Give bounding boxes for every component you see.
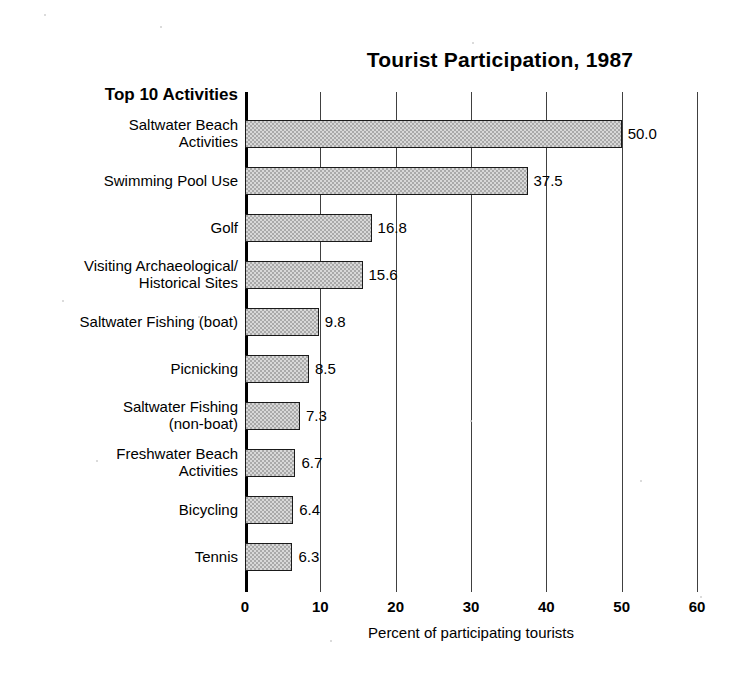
- x-tick-label: 20: [376, 598, 416, 615]
- category-label: Swimming Pool Use: [14, 172, 238, 189]
- category-label: Saltwater Fishing (non-boat): [14, 398, 238, 432]
- x-tick-label: 40: [526, 598, 566, 615]
- bar-value-label: 16.8: [378, 214, 407, 242]
- bar-value-label: 9.8: [325, 308, 346, 336]
- bar[interactable]: [245, 167, 528, 195]
- speckle: [62, 300, 64, 302]
- x-tick-label: 30: [451, 598, 491, 615]
- category-label: Tennis: [14, 548, 238, 565]
- x-tick-label: 50: [602, 598, 642, 615]
- bar-value-label: 15.6: [369, 261, 398, 289]
- speckle: [160, 26, 162, 28]
- x-tick-label: 60: [677, 598, 717, 615]
- bar[interactable]: [245, 543, 292, 571]
- category-label: Picnicking: [14, 360, 238, 377]
- bar[interactable]: [245, 402, 300, 430]
- category-label: Saltwater Beach Activities: [14, 116, 238, 150]
- bar[interactable]: [245, 261, 363, 289]
- bar-chart: Tourist Participation, 1987 Top 10 Activ…: [0, 0, 746, 673]
- speckle: [640, 480, 642, 482]
- speckle: [700, 596, 702, 598]
- category-label: Freshwater Beach Activities: [14, 445, 238, 479]
- bar[interactable]: [245, 449, 295, 477]
- speckle: [96, 460, 98, 462]
- x-tick-label: 0: [225, 598, 265, 615]
- plot-area: 50.037.516.815.69.88.57.36.76.46.3: [245, 92, 697, 592]
- bar[interactable]: [245, 120, 622, 148]
- bar-value-label: 8.5: [315, 355, 336, 383]
- speckle: [470, 420, 472, 422]
- x-axis-title: Percent of participating tourists: [245, 624, 697, 641]
- gridline-60: [697, 92, 698, 592]
- speckle: [472, 42, 474, 44]
- speckle: [44, 14, 46, 16]
- category-axis-header: Top 10 Activities: [20, 85, 238, 105]
- bar-value-label: 6.3: [298, 543, 319, 571]
- bar-value-label: 50.0: [628, 120, 657, 148]
- category-label: Golf: [14, 219, 238, 236]
- bar[interactable]: [245, 355, 309, 383]
- bar[interactable]: [245, 496, 293, 524]
- bar-value-label: 7.3: [306, 402, 327, 430]
- bar[interactable]: [245, 308, 319, 336]
- chart-title: Tourist Participation, 1987: [280, 48, 720, 72]
- speckle: [198, 316, 200, 318]
- bar-value-label: 6.4: [299, 496, 320, 524]
- gridline-50: [622, 92, 623, 592]
- bar-value-label: 6.7: [301, 449, 322, 477]
- category-label: Visiting Archaeological/ Historical Site…: [14, 257, 238, 291]
- x-tick-label: 10: [300, 598, 340, 615]
- category-label: Bicycling: [14, 501, 238, 518]
- category-label: Saltwater Fishing (boat): [14, 313, 238, 330]
- bar-value-label: 37.5: [534, 167, 563, 195]
- bar[interactable]: [245, 214, 372, 242]
- speckle: [330, 640, 332, 642]
